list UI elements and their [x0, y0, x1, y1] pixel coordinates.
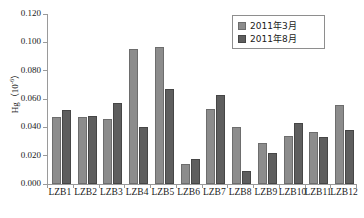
- bar[interactable]: [335, 105, 344, 184]
- bar-chart: Hg（10-6） 0.1200.1000.0800.0600.0400.0200…: [0, 0, 364, 218]
- bar-group: [50, 14, 70, 184]
- y-axis-title-base: Hg（10: [10, 84, 20, 113]
- legend-swatch-icon: [238, 35, 246, 43]
- bar[interactable]: [258, 143, 267, 184]
- x-axis-label: LZB10: [279, 187, 305, 197]
- bar[interactable]: [294, 123, 303, 184]
- x-axis-label: LZB7: [202, 187, 228, 197]
- legend-item: 2011年3月: [238, 19, 319, 32]
- y-axis-tick-label: 0.120: [21, 8, 41, 18]
- bar[interactable]: [113, 103, 122, 184]
- bar[interactable]: [268, 153, 277, 184]
- bar[interactable]: [232, 127, 241, 184]
- y-axis-tick-label: 0.100: [21, 36, 41, 46]
- legend-item: 2011年8月: [238, 32, 319, 45]
- bar[interactable]: [284, 136, 293, 184]
- x-axis-label: LZB6: [176, 187, 202, 197]
- bar[interactable]: [52, 117, 61, 184]
- legend-label: 2011年3月: [250, 19, 297, 32]
- y-axis-tick-label: 0.080: [21, 65, 41, 75]
- bar[interactable]: [129, 49, 138, 184]
- bar[interactable]: [191, 159, 200, 185]
- bar[interactable]: [319, 137, 328, 184]
- bar[interactable]: [139, 127, 148, 184]
- bar-group: [76, 14, 96, 184]
- bar[interactable]: [345, 130, 354, 184]
- bar[interactable]: [88, 116, 97, 184]
- bar[interactable]: [103, 119, 112, 184]
- bar[interactable]: [181, 164, 190, 184]
- bar[interactable]: [78, 117, 87, 184]
- bar-group: [127, 14, 147, 184]
- bar[interactable]: [155, 47, 164, 184]
- bar[interactable]: [165, 89, 174, 184]
- bar[interactable]: [242, 171, 251, 184]
- bar-group: [179, 14, 199, 184]
- bar[interactable]: [206, 109, 215, 184]
- bar[interactable]: [216, 95, 225, 184]
- x-axis-label: LZB3: [99, 187, 125, 197]
- y-axis-tick-label: 0.020: [21, 150, 41, 160]
- x-axis-label: LZB2: [73, 187, 99, 197]
- bar-group: [101, 14, 121, 184]
- bar-group: [204, 14, 224, 184]
- bar[interactable]: [62, 110, 71, 184]
- x-axis-label: LZB8: [227, 187, 253, 197]
- x-axis-label: LZB12: [330, 187, 356, 197]
- y-axis-title-tail: ）: [10, 70, 20, 79]
- y-axis-title: Hg（10-6）: [8, 52, 21, 132]
- legend: 2011年3月 2011年8月: [232, 15, 325, 49]
- x-axis-label: LZB1: [47, 187, 73, 197]
- legend-swatch-icon: [238, 22, 246, 30]
- legend-label: 2011年8月: [250, 32, 297, 45]
- bar-group: [333, 14, 353, 184]
- y-axis-title-exponent: -6: [8, 79, 15, 84]
- x-axis-label: LZB5: [150, 187, 176, 197]
- x-axis-label: LZB11: [305, 187, 331, 197]
- bar[interactable]: [309, 132, 318, 184]
- x-axis-label: LZB9: [253, 187, 279, 197]
- y-axis-tick-label: 0.060: [21, 93, 41, 103]
- x-axis-labels: LZB1LZB2LZB3LZB4LZB5LZB6LZB7LZB8LZB9LZB1…: [47, 187, 356, 203]
- x-axis-label: LZB4: [124, 187, 150, 197]
- y-axis-tick-label: 0.000: [21, 178, 41, 188]
- bar-group: [153, 14, 173, 184]
- y-axis-tick-label: 0.040: [21, 121, 41, 131]
